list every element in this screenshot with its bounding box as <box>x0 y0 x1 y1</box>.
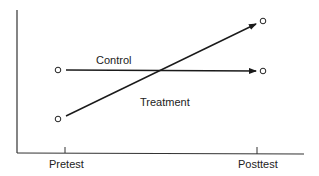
treatment-pretest-point <box>55 116 61 122</box>
x-axis <box>17 153 304 154</box>
treatment-posttest-point <box>260 18 266 24</box>
posttest-label: Posttest <box>238 158 278 170</box>
control-posttest-point <box>260 68 266 74</box>
control-pretest-point <box>55 67 61 73</box>
pretest-label: Pretest <box>49 158 84 170</box>
treatment-label: Treatment <box>140 96 190 108</box>
control-label: Control <box>96 54 131 66</box>
pretest-posttest-diagram <box>0 0 319 176</box>
